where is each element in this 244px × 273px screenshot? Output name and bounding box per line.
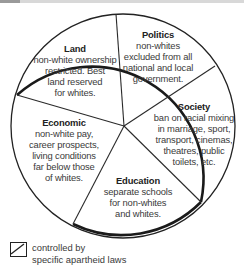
- segment-society: Society ban on racial mixing in marriage…: [150, 101, 238, 167]
- segment-education: Education separate schools for non-white…: [98, 175, 178, 219]
- segment-politics-desc: non-whites excluded from all national an…: [118, 40, 198, 84]
- segment-economic: Economic non-white pay, career prospects…: [22, 117, 106, 183]
- segment-economic-desc: non-white pay, career prospects, living …: [22, 128, 106, 183]
- segment-society-desc: ban on racial mixing in marriage, sport,…: [150, 112, 238, 167]
- segment-politics: Politics non-whites excluded from all na…: [118, 29, 198, 84]
- segment-education-desc: separate schools for non-whites and whit…: [98, 186, 178, 219]
- segment-politics-title: Politics: [118, 29, 198, 40]
- legend-label: controlled by specific apartheid laws: [32, 242, 182, 266]
- segment-land-desc: non-white ownership restricted. Best lan…: [32, 54, 118, 98]
- segment-society-title: Society: [150, 101, 238, 112]
- segment-economic-title: Economic: [22, 117, 106, 128]
- segment-land: Land non-white ownership restricted. Bes…: [32, 43, 118, 98]
- segment-land-title: Land: [32, 43, 118, 54]
- segment-education-title: Education: [98, 175, 178, 186]
- legend-slashed-box-icon: [10, 242, 27, 257]
